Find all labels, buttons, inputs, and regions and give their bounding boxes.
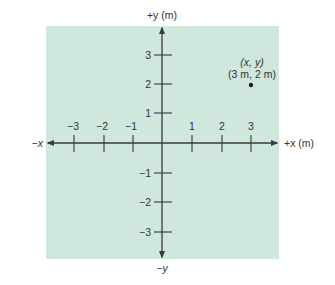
x-tick-label: 1: [189, 120, 195, 132]
x-negative-label: −x: [32, 137, 44, 149]
y-tick-label: −1: [139, 167, 151, 179]
data-point: [249, 83, 253, 87]
y-tick-label: 1: [145, 107, 151, 119]
y-tick-label: −3: [139, 226, 151, 238]
point-label-symbolic: (x, y): [240, 56, 263, 68]
x-tick-label: 2: [219, 120, 225, 132]
y-positive-label: +y (m): [147, 9, 177, 21]
x-tick-label: −1: [125, 120, 137, 132]
coordinate-diagram: −3 −2 −1 1 2 3 3 2 1 −1 −2 −3 +y (m) −y …: [0, 0, 335, 285]
y-negative-label: −y: [156, 262, 168, 274]
y-tick-label: −2: [139, 196, 151, 208]
y-tick-label: 3: [145, 49, 151, 61]
x-tick-label: −3: [67, 120, 79, 132]
point-label-values: (3 m, 2 m): [228, 68, 276, 80]
x-tick-label: −2: [96, 120, 108, 132]
x-tick-label: 3: [248, 120, 254, 132]
y-tick-label: 2: [145, 78, 151, 90]
x-positive-label: +x (m): [284, 137, 314, 149]
